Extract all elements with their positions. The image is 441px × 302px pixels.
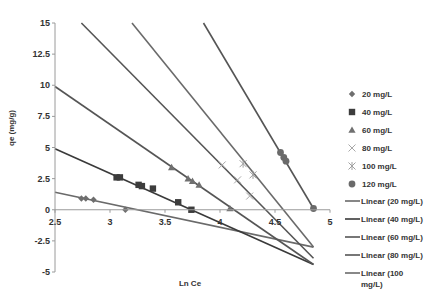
x-tick-label: 2.5 xyxy=(49,217,62,227)
y-tick-label: 5 xyxy=(45,143,50,153)
legend-marker-x xyxy=(349,145,356,152)
y-axis-title: qe (mg/g) xyxy=(7,110,16,146)
trendline-1 xyxy=(55,149,314,265)
plot-area xyxy=(55,23,317,265)
x-tick-label: 3 xyxy=(107,217,112,227)
legend-marker-triangle xyxy=(348,126,355,132)
data-point-diamond xyxy=(90,197,96,203)
legend-label-continued: mg/L) xyxy=(361,280,383,289)
x-axis-title: Ln Ce xyxy=(179,279,202,288)
chart-canvas: 1512.5107.552.50-2.5-52.533.544.55 Ln Ce… xyxy=(0,0,441,302)
x-tick-label: 3.5 xyxy=(159,217,172,227)
legend-label: 80 mg/L xyxy=(362,144,392,153)
data-point-x xyxy=(219,161,226,168)
axes: 1512.5107.552.50-2.5-52.533.544.55 xyxy=(32,18,332,277)
trendline-2 xyxy=(55,86,314,264)
data-point-circle xyxy=(283,158,290,165)
data-point-square xyxy=(139,183,145,189)
y-tick-label: 15 xyxy=(40,18,50,28)
y-tick-label: 12.5 xyxy=(32,49,50,59)
y-tick-label: 10 xyxy=(40,80,50,90)
data-point-diamond xyxy=(83,195,89,201)
trendline-5 xyxy=(204,23,314,209)
legend-marker-square xyxy=(349,109,355,115)
x-tick-label: 4.5 xyxy=(269,217,282,227)
legend-label: Linear (40 mg/L) xyxy=(361,215,423,224)
legend-label: Linear (80 mg/L) xyxy=(361,251,423,260)
data-point-square xyxy=(150,185,156,191)
y-tick-label: -5 xyxy=(42,267,50,277)
y-tick-label: 2.5 xyxy=(37,174,50,184)
legend-label: Linear (60 mg/L) xyxy=(361,233,423,242)
y-tick-label: 7.5 xyxy=(37,111,50,121)
legend-label: Linear (100 xyxy=(361,269,404,278)
legend-marker-diamond xyxy=(349,91,355,97)
legend: 20 mg/L40 mg/L60 mg/L80 mg/L100 mg/L120 … xyxy=(345,90,423,289)
legend-label: 40 mg/L xyxy=(362,108,392,117)
data-point-circle xyxy=(310,205,317,212)
data-point-square xyxy=(117,174,123,180)
data-point-square xyxy=(175,199,181,205)
legend-label: Linear (20 mg/L) xyxy=(361,197,423,206)
x-tick-label: 4 xyxy=(217,217,222,227)
legend-label: 60 mg/L xyxy=(362,126,392,135)
legend-label: 100 mg/L xyxy=(362,162,397,171)
legend-marker-asterisk xyxy=(349,162,356,170)
legend-label: 120 mg/L xyxy=(362,180,397,189)
x-tick-label: 5 xyxy=(327,217,332,227)
y-tick-label: 0 xyxy=(45,205,50,215)
legend-label: 20 mg/L xyxy=(362,90,392,99)
y-tick-label: -2.5 xyxy=(34,236,50,246)
legend-marker-circle xyxy=(349,181,356,188)
